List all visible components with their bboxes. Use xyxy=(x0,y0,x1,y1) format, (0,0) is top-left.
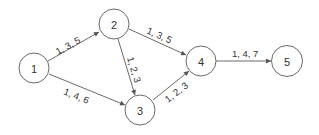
edge-label-2-3: 1, 2, 3 xyxy=(125,55,143,83)
edge-label-4-5: 1, 4, 7 xyxy=(232,48,258,59)
node-label: 5 xyxy=(284,56,290,68)
edge-label-1-3: 1, 4, 6 xyxy=(62,86,91,106)
edge-label-3-4: 1, 2, 3 xyxy=(162,80,190,105)
node-1: 1 xyxy=(19,53,49,83)
network-diagram: 1, 3, 5 1, 4, 6 1, 2, 3 1, 3, 5 1, 2, 3 … xyxy=(0,0,319,135)
edge-label-1-2: 1, 3, 5 xyxy=(54,34,82,56)
node-3: 3 xyxy=(125,95,155,125)
node-label: 4 xyxy=(198,56,204,68)
node-5: 5 xyxy=(272,46,303,77)
node-2: 2 xyxy=(99,9,129,39)
node-4: 4 xyxy=(186,46,216,76)
node-label: 1 xyxy=(31,63,37,75)
node-label: 2 xyxy=(111,19,117,31)
node-label: 3 xyxy=(137,105,143,117)
